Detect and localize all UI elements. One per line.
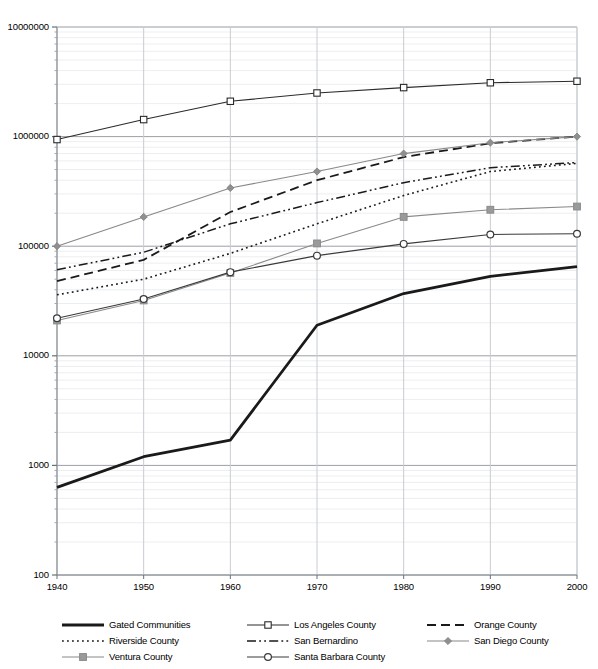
legend-swatch-san-bernardino	[245, 634, 291, 648]
legend-label: Los Angeles County	[294, 619, 376, 630]
y-axis-tick-label: 10000000	[8, 21, 49, 32]
x-axis-tick-label: 2000	[552, 581, 598, 592]
chart-plot-area	[0, 0, 598, 669]
legend-swatch-riverside-county	[60, 634, 106, 648]
population-growth-chart: 100100010000100000100000010000000 194019…	[0, 0, 598, 669]
legend-swatch-gated-communities	[60, 618, 106, 632]
legend-swatch-san-diego-county	[425, 634, 471, 648]
y-axis-tick-label: 100	[33, 569, 49, 580]
legend-item-riverside-county[interactable]: Riverside County	[60, 633, 179, 648]
legend-swatch-ventura-county	[60, 650, 106, 664]
legend-swatch-los-angeles-county	[245, 618, 291, 632]
legend-label: Orange County	[474, 619, 536, 630]
x-axis-tick-label: 1940	[32, 581, 82, 592]
legend-swatch-orange-county	[425, 618, 471, 632]
legend-row: Gated CommunitiesLos Angeles CountyOrang…	[60, 617, 580, 632]
x-axis-tick-label: 1960	[205, 581, 255, 592]
legend-item-san-bernardino[interactable]: San Bernardino	[245, 633, 358, 648]
legend-item-santa-barbara-county[interactable]: Santa Barbara County	[245, 649, 385, 664]
legend-label: Santa Barbara County	[294, 651, 385, 662]
legend-label: San Diego County	[474, 635, 549, 646]
legend-item-ventura-county[interactable]: Ventura County	[60, 649, 172, 664]
y-axis-tick-label: 10000	[23, 349, 49, 360]
legend-item-gated-communities[interactable]: Gated Communities	[60, 617, 190, 632]
y-axis-tick-label: 100000	[18, 240, 49, 251]
x-axis-tick-label: 1950	[119, 581, 169, 592]
legend-item-san-diego-county[interactable]: San Diego County	[425, 633, 549, 648]
legend-row: Ventura CountySanta Barbara County	[60, 649, 580, 664]
x-axis-tick-label: 1970	[292, 581, 342, 592]
legend-row: Riverside CountySan BernardinoSan Diego …	[60, 633, 580, 648]
chart-legend: Gated CommunitiesLos Angeles CountyOrang…	[60, 617, 580, 665]
y-axis-tick-label: 1000	[28, 459, 49, 470]
legend-label: Riverside County	[109, 635, 179, 646]
y-axis-tick-label: 1000000	[13, 130, 49, 141]
x-axis-tick-label: 1980	[379, 581, 429, 592]
legend-item-orange-county[interactable]: Orange County	[425, 617, 536, 632]
legend-item-los-angeles-county[interactable]: Los Angeles County	[245, 617, 376, 632]
legend-label: San Bernardino	[294, 635, 358, 646]
legend-label: Gated Communities	[109, 619, 190, 630]
legend-swatch-santa-barbara-county	[245, 650, 291, 664]
legend-label: Ventura County	[109, 651, 172, 662]
x-axis-tick-label: 1990	[465, 581, 515, 592]
